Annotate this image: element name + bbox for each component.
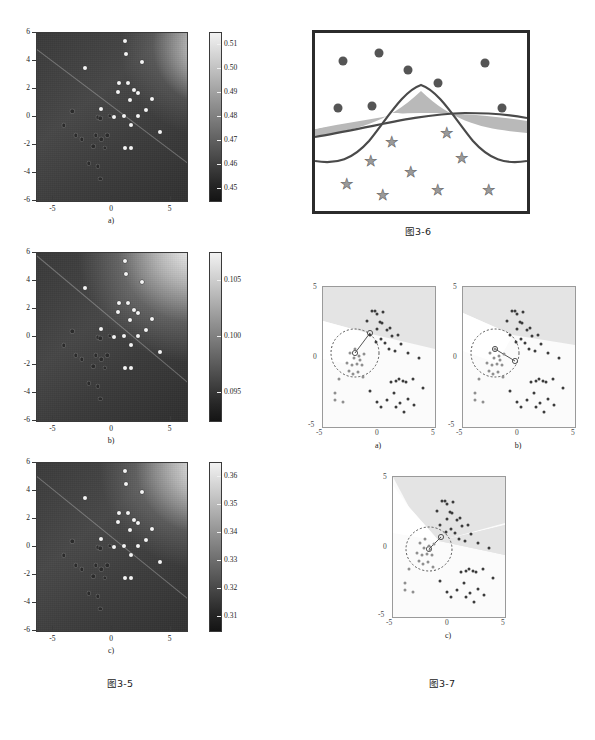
heatmap-point-class-a <box>124 482 128 486</box>
heatmap-point-class-b <box>92 575 96 579</box>
scatter-plot-c <box>392 476 506 618</box>
heatmap-point-class-b <box>80 358 84 362</box>
scatter-point-cluster-left <box>342 400 345 403</box>
colorbar-c-tickmark <box>217 532 221 533</box>
scatter-b-label: b) <box>503 441 533 450</box>
scatter-point-cluster-left <box>432 565 435 568</box>
colorbar-a-tick: 0.49 <box>224 87 237 96</box>
class-circle-marker <box>480 59 489 68</box>
scatter-point-cluster-upper <box>523 342 526 345</box>
scatter-point-cluster-left <box>488 351 491 354</box>
colorbar-gradient-a <box>210 33 221 201</box>
heatmap-a-ytickmark <box>32 172 36 173</box>
heatmap-point-class-a <box>123 259 127 263</box>
class-star-marker: ★ <box>431 182 444 197</box>
heatmap-point-class-b <box>92 365 96 369</box>
heatmap-a-ytickmark <box>32 144 36 145</box>
scatter-point-cluster-lower <box>544 381 547 384</box>
scatter-c-xtick-neg5: -5 <box>386 618 392 627</box>
heatmap-point-class-b <box>74 353 78 357</box>
heatmap-point-class-a <box>123 469 127 473</box>
scatter-point-cluster-lower <box>474 571 477 574</box>
colorbar-a-tickmark <box>217 164 221 165</box>
scatter-point-cluster-left <box>351 364 354 367</box>
scatter-point-cluster-upper <box>509 333 512 336</box>
heatmap-point-class-a <box>132 518 136 522</box>
scatter-point-cluster-left <box>428 548 431 551</box>
heatmap-point-class-b <box>80 568 84 572</box>
colorbar-a-tick: 0.46 <box>224 159 237 168</box>
heatmap-point-class-a <box>158 350 162 354</box>
heatmap-c-ytick: 2 <box>4 513 30 522</box>
heatmap-point-class-a <box>99 537 103 541</box>
scatter-point-cluster-upper <box>515 328 518 331</box>
heatmap-a-ytick: 6 <box>4 27 30 36</box>
colorbar-gradient-b <box>210 253 221 421</box>
scatter-point-cluster-upper <box>381 322 384 325</box>
heatmap-point-class-a <box>132 88 136 92</box>
heatmap-point-class-a <box>116 310 120 314</box>
class-star-marker: ★ <box>364 154 377 169</box>
class-circle-marker <box>338 57 347 66</box>
heatmap-point-class-a <box>136 311 140 315</box>
heatmap-point-class-b <box>106 133 110 137</box>
scatter-point-cluster-upper <box>528 347 531 350</box>
scatter-point-cluster-left <box>354 347 357 350</box>
heatmap-a-xtick: -5 <box>42 204 62 213</box>
scatter-point-cluster-left <box>424 537 427 540</box>
scatter-point-cluster-upper <box>375 312 378 315</box>
colorbar-a-tickmark <box>217 68 221 69</box>
scatter-point-cluster-upper <box>529 326 532 329</box>
colorbar-b-tickmark <box>217 280 221 281</box>
class-circle-marker <box>334 103 343 112</box>
scatter-point-cluster-upper <box>450 527 453 530</box>
scatter-point-cluster-left <box>337 378 340 381</box>
heatmap-point-class-b <box>80 138 84 142</box>
class-circle-marker <box>497 103 506 112</box>
figure-3-6-frame: ★ ★ ★ ★ ★ ★ ★ ★ ★ <box>312 30 530 214</box>
scatter-point-cluster-left <box>477 378 480 381</box>
scatter-point-cluster-lower <box>525 399 528 402</box>
heatmap-point-class-b <box>108 544 112 548</box>
class-star-marker: ★ <box>404 164 417 179</box>
heatmap-a-ytick: -4 <box>4 167 30 176</box>
colorbar-a-tickmark <box>217 116 221 117</box>
figure-3-5: 6420-2-4-6-505a)0.510.500.490.480.470.46… <box>0 0 290 700</box>
heatmap-point-class-a <box>83 496 87 500</box>
scatter-point-cluster-upper <box>444 530 447 533</box>
scatter-point-cluster-left <box>358 358 361 361</box>
scatter-point-cluster-left <box>497 354 500 357</box>
heatmap-point-class-a <box>136 114 140 118</box>
scatter-b-ytick-0: 0 <box>453 352 457 361</box>
heatmap-point-class-b <box>94 563 98 567</box>
heatmap-point-class-b <box>62 554 66 558</box>
colorbar-c-tick: 0.32 <box>224 583 237 592</box>
scatter-c-xtick-5: 5 <box>501 618 505 627</box>
heatmap-point-class-a <box>129 553 133 557</box>
scatter-c-xtick-0: 0 <box>445 618 449 627</box>
scatter-point-cluster-left <box>422 562 425 565</box>
scatter-point-cluster-upper <box>391 335 394 338</box>
heatmap-c-ytickmark <box>32 490 36 491</box>
heatmap-point-class-b <box>87 381 91 385</box>
scatter-point-cluster-lower <box>482 593 485 596</box>
scatter-point-cluster-left <box>421 554 424 557</box>
heatmap-point-class-b <box>106 563 110 567</box>
scatter-point-cluster-left <box>423 547 426 550</box>
heatmap-a-label: a) <box>91 216 131 225</box>
heatmap-a-xtickmark <box>52 196 53 200</box>
heatmap-point-class-b <box>70 330 74 334</box>
heatmap-b-ytickmark <box>32 336 36 337</box>
heatmap-point-class-a <box>128 318 132 322</box>
scatter-point-cluster-left <box>492 372 495 375</box>
colorbar-c-tickmark <box>217 476 221 477</box>
heatmap-c-xtick: 5 <box>160 634 180 643</box>
scatter-point-cluster-left <box>433 543 436 546</box>
class-star-marker: ★ <box>376 187 389 202</box>
heatmap-point-class-a <box>129 123 133 127</box>
heatmap-point-class-b <box>94 133 98 137</box>
scatter-a-ytick-0: 0 <box>313 352 317 361</box>
scatter-point-cluster-left <box>418 541 421 544</box>
scatter-point-cluster-left <box>487 370 490 373</box>
scatter-point-cluster-lower <box>439 579 442 582</box>
